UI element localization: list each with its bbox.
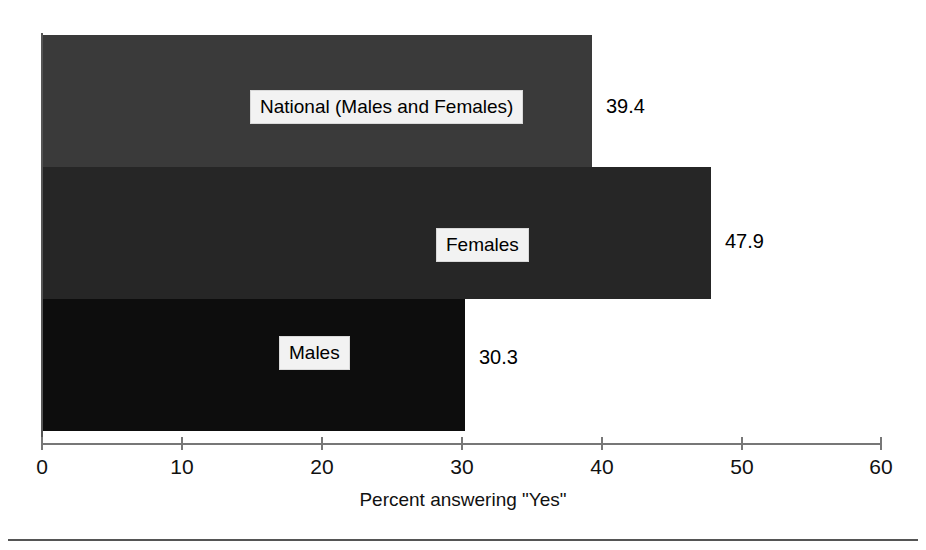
x-tick-mark-0 (41, 437, 43, 450)
value-label-males: 30.3 (479, 347, 518, 367)
x-tick-mark-10 (181, 437, 183, 450)
x-tick-mark-40 (601, 437, 603, 450)
x-tick-label-20: 20 (292, 455, 352, 479)
series-label-males: Males (279, 336, 350, 370)
x-tick-mark-20 (321, 437, 323, 450)
series-label-females: Females (436, 228, 529, 262)
x-tick-label-0: 0 (12, 455, 72, 479)
x-axis-title: Percent answering "Yes" (0, 489, 926, 511)
x-tick-label-60: 60 (851, 455, 911, 479)
footer-divider (8, 539, 918, 541)
x-tick-mark-60 (880, 437, 882, 450)
x-tick-label-50: 50 (712, 455, 772, 479)
value-label-national: 39.4 (606, 96, 645, 116)
value-label-females: 47.9 (725, 231, 764, 251)
bar-males (41, 299, 465, 431)
x-tick-label-10: 10 (152, 455, 212, 479)
x-tick-label-40: 40 (572, 455, 632, 479)
x-tick-label-30: 30 (432, 455, 492, 479)
chart-page: National (Males and Females) Females Mal… (0, 0, 926, 550)
y-axis-line (41, 33, 43, 445)
x-tick-mark-30 (461, 437, 463, 450)
bar-chart-plot-area: National (Males and Females) Females Mal… (0, 0, 926, 550)
bar-females (41, 167, 711, 299)
x-tick-mark-50 (741, 437, 743, 450)
series-label-national: National (Males and Females) (250, 90, 523, 124)
